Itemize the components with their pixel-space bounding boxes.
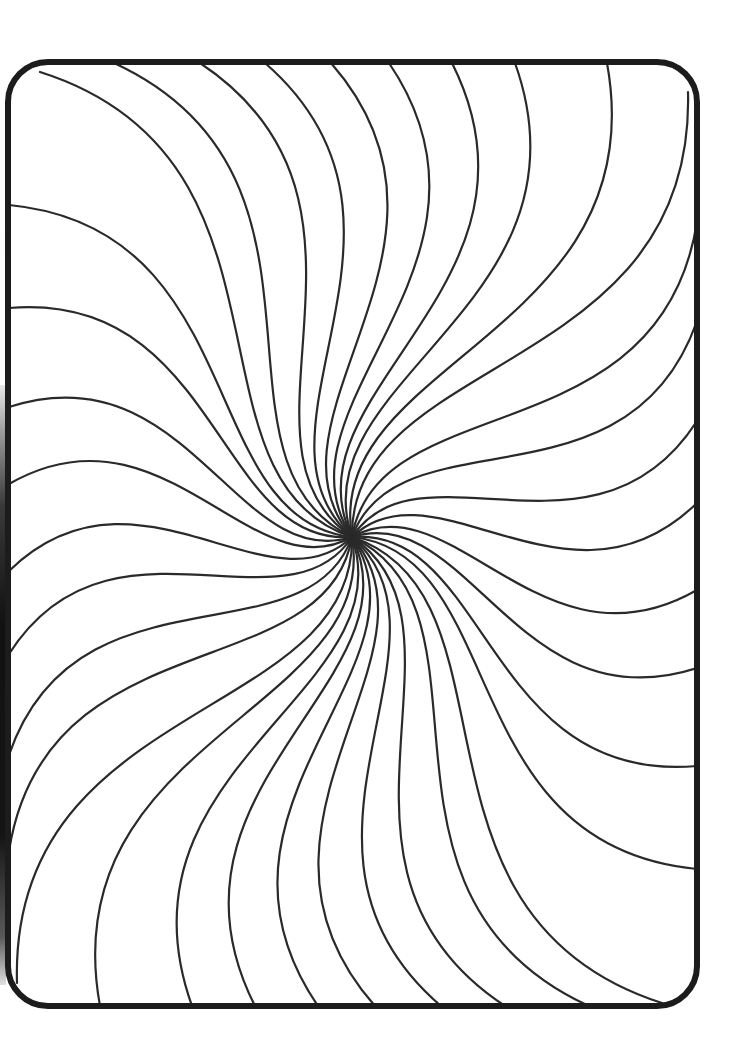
swirl-ray xyxy=(9,524,352,571)
swirl-ray xyxy=(352,421,697,537)
swirl-ray xyxy=(352,503,697,550)
swirl-ray xyxy=(334,63,430,537)
swirl-lines-group xyxy=(9,63,697,1006)
swirl-ray xyxy=(352,537,441,1006)
swirl-ray xyxy=(9,307,352,537)
coloring-page-canvas xyxy=(0,0,745,1056)
swirl-ray xyxy=(9,537,352,654)
swirl-ray xyxy=(9,397,352,540)
swirl-ray xyxy=(200,63,352,537)
swirl-ray xyxy=(352,92,688,537)
swirl-ray xyxy=(95,537,354,1006)
swirl-ray xyxy=(17,537,352,983)
swirl-ray xyxy=(350,63,612,537)
swirl-ray xyxy=(265,63,352,537)
swirl-ray xyxy=(277,537,370,1006)
